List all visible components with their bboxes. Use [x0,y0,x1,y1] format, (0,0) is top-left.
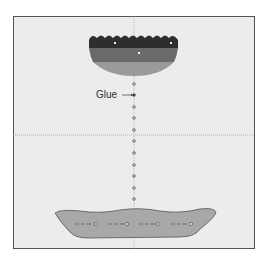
top-piece [89,36,178,79]
glue-label: Glue [96,89,117,100]
diagram-canvas [0,0,267,267]
bottom-piece [55,209,216,239]
